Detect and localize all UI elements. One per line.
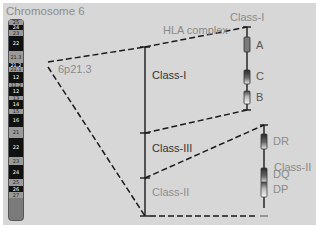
region-label-class-i: Class-I xyxy=(152,70,186,81)
chromosome-band-label: 21.3 xyxy=(10,54,21,60)
gene-a-label: A xyxy=(256,40,263,51)
hla-complex-label: HLA complex xyxy=(163,25,228,36)
chromosome-band-label: 14 xyxy=(13,101,19,107)
locus-label: 6p21.3 xyxy=(58,64,92,75)
gene-dp-label: DP xyxy=(273,184,288,195)
chromosome-band-label: 12 xyxy=(13,88,19,94)
gene-dq-box xyxy=(261,168,267,183)
region-label-class-ii: Class-II xyxy=(152,187,189,198)
gene-dp-box xyxy=(261,182,267,197)
chromosome-band-label: 15 xyxy=(13,108,19,114)
chromosome-band-label: 12 xyxy=(13,74,19,80)
chromosome-band-label: 13 xyxy=(13,95,19,101)
class-ii-zoom-lines xyxy=(145,125,264,216)
chromosome-band-label: 11.2 xyxy=(10,82,21,88)
class-ii-detail-label: Class-II xyxy=(274,162,311,173)
gene-a-box xyxy=(244,37,250,52)
class-i-detail-label: Class-I xyxy=(230,12,264,23)
chromosome-band-label: 22 xyxy=(13,144,19,150)
chromosome-band-label: 23 xyxy=(13,158,19,164)
chromosome-band-label: 27 xyxy=(13,192,19,198)
chromosome-band-label: 24 xyxy=(13,169,19,175)
chromosome-band-label: 21.1 xyxy=(10,66,21,72)
chromosome-band-label: 23 xyxy=(13,30,19,36)
region-label-class-iii: Class-III xyxy=(152,143,192,154)
gene-dr-box xyxy=(261,134,267,149)
gene-b-label: B xyxy=(256,92,263,103)
chromosome-band-label: 16 xyxy=(13,117,19,123)
chromosome-band-label: 25 xyxy=(13,179,19,185)
chromosome-ideogram: 2524232221.321.221.11211.212131415162122… xyxy=(9,19,24,220)
chromosome-band-label: 22 xyxy=(13,40,19,46)
chromosome-band-label: 21 xyxy=(13,129,19,135)
chart-title: Chromosome 6 xyxy=(6,6,85,18)
gene-c-label: C xyxy=(256,71,264,82)
gene-dr-label: DR xyxy=(273,136,289,147)
gene-b-box xyxy=(244,91,250,104)
gene-c-box xyxy=(244,70,250,84)
